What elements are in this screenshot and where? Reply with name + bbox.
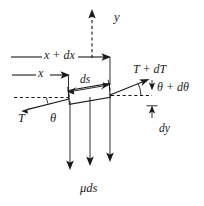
diagram-svg (0, 0, 204, 206)
angle-arc-left (47, 98, 48, 104)
label-tension-left: T (18, 112, 25, 125)
weight-arrow-2 (86, 97, 94, 166)
label-angle-right: θ + dθ (157, 81, 189, 93)
label-y-axis: y (114, 11, 120, 24)
dy-dimension (147, 80, 158, 118)
label-angle-left: θ (50, 112, 56, 125)
label-x: x (38, 67, 43, 79)
label-dy: dy (159, 123, 170, 135)
tension-left-arrow (21, 99, 70, 114)
angle-arc-right (138, 84, 141, 96)
label-tension-right: T + dT (133, 63, 166, 75)
label-ds: ds (80, 74, 90, 86)
label-x-plus-dx: x + dx (44, 49, 75, 61)
y-axis-dashed-arrow (88, 9, 95, 58)
weight-arrow-1 (66, 101, 74, 170)
label-weight: μds (80, 182, 97, 195)
tension-right-arrow (110, 79, 150, 95)
weight-arrow-3 (106, 94, 114, 162)
figure-canvas: y x + dx x ds T + dT θ + dθ dy T θ μds (0, 0, 204, 206)
